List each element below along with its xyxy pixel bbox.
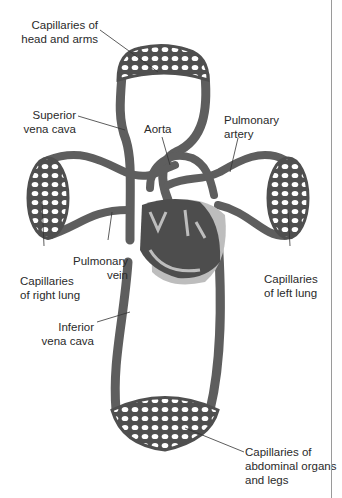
circulatory-diagram	[0, 0, 342, 498]
label-pulmonary-artery: Pulmonary artery	[224, 113, 279, 141]
heart	[140, 199, 226, 284]
label-capillaries-right-lung: Capillaries of right lung	[20, 274, 80, 302]
label-capillaries-left-lung: Capillaries of left lung	[264, 272, 318, 300]
capillaries-left-lung	[268, 158, 308, 238]
label-capillaries-head-arms: Capillaries of head and arms	[4, 18, 98, 46]
capillaries-abdominal-organs-legs	[112, 398, 218, 451]
label-inferior-vena-cava: Inferior vena cava	[4, 320, 94, 348]
capillaries-head-arms	[118, 45, 208, 80]
page-edge-divider	[331, 0, 332, 498]
label-aorta: Aorta	[144, 122, 172, 136]
label-capillaries-abdominal-legs: Capillaries of abdominal organs and legs	[245, 445, 336, 487]
capillaries-right-lung	[28, 158, 68, 238]
label-superior-vena-cava: Superior vena cava	[4, 108, 76, 136]
